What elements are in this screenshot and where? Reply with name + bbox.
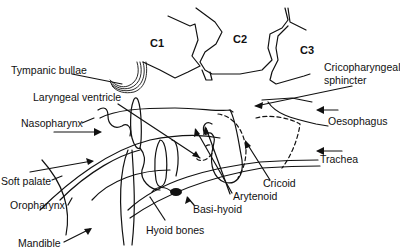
- soft-palate-pointer: [30, 161, 92, 172]
- label-mandible: Mandible: [18, 237, 61, 247]
- soft-palate-outline: [40, 135, 220, 210]
- label-soft-palate: Soft palate: [1, 175, 51, 187]
- label-trachea: Trachea: [320, 153, 358, 165]
- nasopharynx-leader: [82, 118, 94, 123]
- label-laryngeal-ventricle: Laryngeal ventricle: [33, 91, 121, 103]
- label-cricoid: Cricoid: [263, 177, 296, 189]
- soft-palate-leader: [52, 176, 62, 180]
- label-c3: C3: [300, 44, 314, 56]
- nasopharynx-roof: [100, 108, 233, 118]
- label-arytenoid: Arytenoid: [233, 190, 277, 202]
- oropharynx-leader: [68, 198, 72, 205]
- label-c2: C2: [233, 33, 247, 45]
- label-c1: C1: [150, 37, 164, 49]
- label-oesophagus: Oesophagus: [328, 115, 388, 127]
- label-nasopharynx: Nasopharynx: [21, 117, 83, 129]
- label-hyoid-bones: Hyoid bones: [146, 224, 204, 236]
- larynx-outline: [203, 110, 242, 183]
- hyoid-pointer: [150, 197, 165, 220]
- label-tympanic-bullae: Tympanic bullae: [11, 64, 87, 76]
- hyoid-bone-left: [121, 150, 135, 245]
- label-basi-hyoid: Basi-hyoid: [193, 203, 242, 215]
- mandible-outline: [42, 160, 68, 235]
- hyoid-bone-center: [155, 140, 167, 187]
- label-cricopharyngeal-line1: Cricopharyngeal: [324, 61, 400, 73]
- epihyoid-outline: [131, 98, 142, 149]
- cricopharyngeal-pointer: [256, 86, 352, 106]
- label-oropharynx: Oropharynx: [10, 199, 65, 211]
- arytenoid-dashed: [196, 145, 213, 161]
- hyoid-bone-right: [172, 140, 178, 176]
- label-cricopharyngeal-line2: sphincter: [324, 74, 367, 86]
